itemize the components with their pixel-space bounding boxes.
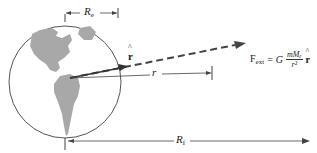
force-arrowhead — [234, 41, 246, 49]
diagram-canvas — [0, 0, 317, 153]
mass-over-r-squared-fraction: mMₑ r² — [286, 50, 303, 69]
fraction-denominator: r² — [292, 60, 298, 69]
rf-arrowhead-right — [302, 138, 310, 144]
re-arrowhead-left — [66, 11, 71, 15]
earth-radius-label: Re — [84, 5, 94, 19]
unit-vector-r-hat: r — [306, 54, 310, 65]
total-distance-label: Rf — [176, 133, 185, 147]
gravitational-constant: G — [276, 54, 283, 65]
distance-r-label: r — [152, 66, 156, 78]
equals-sign: = — [267, 54, 273, 65]
force-symbol: Fext — [250, 53, 264, 66]
fraction-numerator: mMₑ — [286, 50, 303, 60]
r-line-right — [162, 73, 206, 74]
rf-arrowhead-left — [68, 139, 74, 143]
unit-vector-label: r — [128, 50, 133, 62]
force-formula: Fext = G mMₑ r² r — [250, 50, 310, 69]
r-arrowhead — [206, 71, 212, 75]
re-arrowhead-right — [112, 11, 117, 15]
